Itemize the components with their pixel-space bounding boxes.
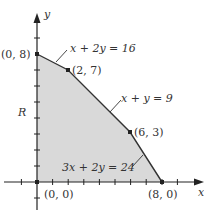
vertex-label-origin: (0, 0): [44, 188, 74, 201]
diagram-canvas: y x R (0, 0) (0, 8) (2, 7) (6, 3) (8, 0)…: [0, 0, 204, 212]
vertex-label-6-3: (6, 3): [134, 126, 164, 139]
y-axis-arrow-icon: [34, 13, 41, 23]
vertex-label-2-7: (2, 7): [72, 64, 102, 77]
x-axis-arrow-icon: [194, 179, 204, 186]
constraint-label-2: x + y = 9: [121, 92, 173, 105]
y-axis-label: y: [43, 8, 51, 21]
leader-line: [56, 50, 67, 62]
region-label: R: [17, 106, 26, 119]
constraint-label-1: x + 2y = 16: [70, 42, 136, 55]
leader-line: [110, 100, 121, 112]
vertex-label-8-0: (8, 0): [148, 188, 178, 201]
x-axis-label: x: [198, 186, 204, 199]
constraint-label-3: 3x + 2y = 24: [62, 161, 135, 174]
vertex-label-0-8: (0, 8): [1, 48, 31, 61]
